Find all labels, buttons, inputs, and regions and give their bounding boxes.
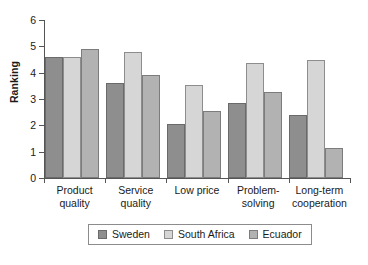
bar-group [106, 20, 160, 178]
legend-swatch-south-africa [164, 230, 173, 239]
bar-group [228, 20, 282, 178]
y-tick-label: 3 [30, 94, 36, 105]
y-tick-label: 6 [30, 15, 36, 26]
bar [81, 49, 99, 178]
bar-group [167, 20, 221, 178]
legend-swatch-ecuador [249, 230, 258, 239]
bar [142, 75, 160, 178]
y-tick-label: 0 [30, 173, 36, 184]
x-tick-mark [105, 178, 106, 183]
x-axis-label: Long-term cooperation [277, 184, 361, 209]
y-tick-label: 4 [30, 67, 36, 78]
legend-swatch-sweden [98, 230, 107, 239]
legend-item-ecuador: Ecuador [249, 229, 302, 240]
y-tick-label: 5 [30, 41, 36, 52]
legend-item-sweden: Sweden [98, 229, 150, 240]
y-axis-title: Ranking [8, 42, 20, 122]
bar [289, 115, 307, 178]
x-tick-mark [166, 178, 167, 183]
legend-label-ecuador: Ecuador [263, 229, 302, 240]
bar [246, 63, 264, 178]
bar [307, 60, 325, 179]
y-tick-mark [39, 125, 44, 126]
bar [228, 103, 246, 178]
x-tick-mark [228, 178, 229, 183]
y-tick-mark [39, 73, 44, 74]
bar [45, 57, 63, 178]
bar [325, 148, 343, 178]
bar [264, 92, 282, 178]
legend-label-south-africa: South Africa [178, 229, 235, 240]
bar [124, 52, 142, 178]
bar-chart: Ranking 0123456 Product qualityService q… [0, 0, 368, 265]
y-tick-label: 2 [30, 120, 36, 131]
bar-group [45, 20, 99, 178]
bar [167, 124, 185, 178]
bar [106, 83, 124, 178]
x-tick-mark [44, 178, 45, 183]
bar [203, 111, 221, 178]
y-tick-label: 1 [30, 146, 36, 157]
bar-group [289, 20, 343, 178]
legend-label-sweden: Sweden [112, 229, 150, 240]
plot-area: 0123456 [44, 20, 350, 178]
bar [185, 85, 203, 178]
legend: Sweden South Africa Ecuador [88, 224, 312, 245]
y-tick-mark [39, 152, 44, 153]
x-axis-line [44, 178, 350, 179]
legend-item-south-africa: South Africa [164, 229, 235, 240]
y-tick-mark [39, 99, 44, 100]
x-tick-mark [289, 178, 290, 183]
y-tick-mark [39, 46, 44, 47]
x-tick-mark [350, 178, 351, 183]
bar [63, 57, 81, 178]
y-tick-mark [39, 20, 44, 21]
